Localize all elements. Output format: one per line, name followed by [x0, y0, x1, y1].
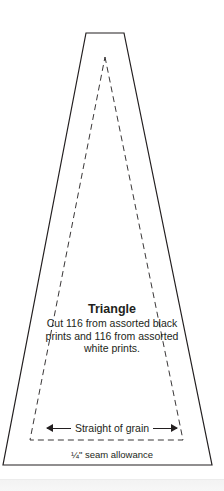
seam-line	[30, 57, 183, 440]
grain-label: Straight of grain	[75, 422, 149, 434]
template-title: Triangle	[40, 302, 184, 316]
arrow-left-icon	[47, 428, 71, 429]
grain-line: Straight of grain	[40, 422, 184, 434]
cut-line	[3, 33, 212, 465]
seam-allowance-label: ¼" seam allowance	[40, 449, 184, 460]
arrow-right-icon	[153, 428, 177, 429]
page-footer-bar	[0, 479, 224, 491]
cutting-instructions: Cut 116 from assorted black prints and 1…	[40, 317, 184, 355]
